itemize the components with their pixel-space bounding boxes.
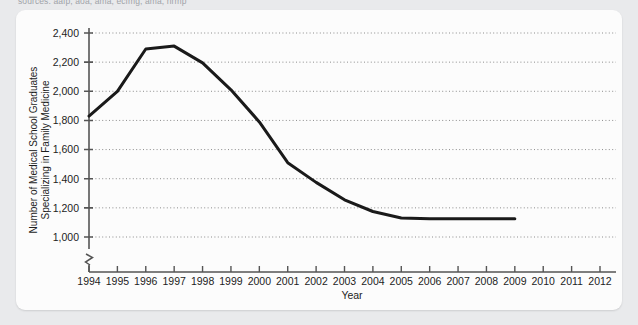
figure-source-caption-strip: sources: aafp, aoa, ama, ecfmg, ama, nrm… [0,0,638,9]
x-axis-tick-label: 1999 [219,275,243,287]
y-axis-tick-label: 2,200 [53,56,79,68]
x-axis-title: Year [341,289,363,301]
line-chart: 1,0001,2001,4001,6001,8002,0002,2002,400… [16,10,622,310]
x-axis-tick-label: 1995 [106,275,130,287]
y-axis-tick-label: 1,000 [53,231,79,243]
x-axis-tick-label: 2011 [560,275,583,287]
x-axis-tick-label: 2008 [475,275,499,287]
x-axis-tick-label: 2005 [390,275,414,287]
x-axis-tick-label: 1994 [77,275,101,287]
x-axis-ticks-group: 1994199519961997199819992000200120022003… [77,266,612,287]
figure-source-caption: sources: aafp, aoa, ama, ecfmg, ama, nrm… [18,0,187,6]
y-axis-tick-label: 1,600 [53,143,79,155]
x-axis-tick-label: 2001 [276,275,300,287]
x-axis-tick-label: 2012 [588,275,612,287]
y-axis-tick-label: 2,400 [53,27,79,39]
x-axis-tick-label: 2009 [503,275,527,287]
x-axis-tick-label: 2007 [446,275,470,287]
x-axis-tick-label: 1998 [191,275,215,287]
x-axis-tick-label: 2000 [248,275,272,287]
figure-card: 1,0001,2001,4001,6001,8002,0002,2002,400… [16,10,622,310]
x-axis-tick-label: 2006 [418,275,442,287]
gridlines-group [92,33,616,237]
x-axis-tick-label: 2004 [361,275,385,287]
x-axis-tick-label: 1997 [162,275,186,287]
x-axis-tick-label: 2010 [532,275,556,287]
x-axis-tick-label: 2002 [304,275,328,287]
y-axis-tick-label: 1,200 [53,202,79,214]
y-axis-ticks-group: 1,0001,2001,4001,6001,8002,0002,2002,400 [53,27,93,243]
y-axis-break-icon [86,254,93,265]
data-series-line [89,46,515,219]
x-axis-tick-label: 2003 [333,275,357,287]
y-axis-title-line-2: Specializing in Family Medicine [40,80,51,219]
chart-svg: 1,0001,2001,4001,6001,8002,0002,2002,400… [16,10,622,310]
y-axis-tick-label: 1,400 [53,173,79,185]
y-axis-tick-label: 1,800 [53,114,79,126]
y-axis-tick-label: 2,000 [53,85,79,97]
x-axis-tick-label: 1996 [134,275,158,287]
y-axis-title-line-1: Number of Medical School Graduates [28,67,39,234]
